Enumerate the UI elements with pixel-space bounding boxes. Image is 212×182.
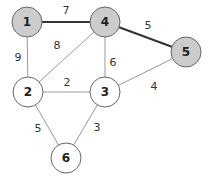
node-2: 2 (13, 77, 43, 107)
edge-weight-label: 5 (145, 19, 152, 32)
node-label: 2 (24, 85, 32, 99)
edge-weight-label: 3 (94, 121, 101, 134)
node-label: 5 (182, 45, 190, 59)
node-label: 6 (62, 151, 70, 165)
edge-weight-label: 6 (110, 56, 117, 69)
edge-weight-label: 2 (64, 76, 71, 89)
edge-weight-label: 9 (15, 51, 22, 64)
node-label: 3 (101, 85, 109, 99)
node-6: 6 (51, 143, 81, 173)
node-4: 4 (90, 7, 120, 37)
edge-weight-label: 4 (151, 80, 158, 93)
node-5: 5 (171, 37, 201, 67)
edge-weight-label: 5 (35, 122, 42, 135)
node-label: 4 (101, 15, 109, 29)
edge-weight-label: 8 (54, 39, 61, 52)
weighted-graph: 759864253 145236 (0, 0, 212, 182)
node-label: 1 (23, 15, 31, 29)
node-3: 3 (90, 77, 120, 107)
edge-weight-label: 7 (63, 4, 70, 17)
node-1: 1 (12, 7, 42, 37)
